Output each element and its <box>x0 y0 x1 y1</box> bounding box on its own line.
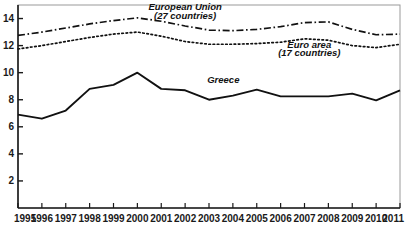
x-tick-label: 2007 <box>293 213 316 224</box>
chart-background <box>0 0 408 232</box>
series-label-european-union: (27 countries) <box>154 10 216 21</box>
series-label-greece: Greece <box>207 74 240 85</box>
y-tick-label: 10 <box>3 67 15 78</box>
x-tick-label: 2002 <box>174 213 197 224</box>
y-tick-label: 8 <box>8 94 14 105</box>
y-tick-label: 12 <box>3 40 15 51</box>
x-tick-label: 1999 <box>102 213 125 224</box>
x-tick-label: 2005 <box>246 213 269 224</box>
series-label-euro-area: (17 countries) <box>278 47 340 58</box>
x-tick-label: 1998 <box>79 213 102 224</box>
unemployment-rate-line-chart: 2468101214 19951996199719981999200020012… <box>0 0 408 232</box>
x-tick-label: 2000 <box>126 213 149 224</box>
x-tick-label: 2004 <box>222 213 245 224</box>
x-tick-label: 2011 <box>382 213 404 224</box>
x-tick-label: 1997 <box>55 213 78 224</box>
y-tick-label: 4 <box>8 148 14 159</box>
x-tick-label: 1996 <box>31 213 54 224</box>
y-tick-label: 6 <box>8 121 14 132</box>
y-tick-label: 2 <box>8 175 14 186</box>
x-tick-label: 2001 <box>150 213 173 224</box>
x-tick-label: 2003 <box>198 213 221 224</box>
x-tick-label: 2009 <box>341 213 364 224</box>
x-tick-label: 2008 <box>317 213 340 224</box>
x-axis-tick-labels: 1995199619971998199920002001200220032004… <box>14 213 404 224</box>
x-tick-label: 2006 <box>270 213 293 224</box>
y-tick-label: 14 <box>3 13 15 24</box>
